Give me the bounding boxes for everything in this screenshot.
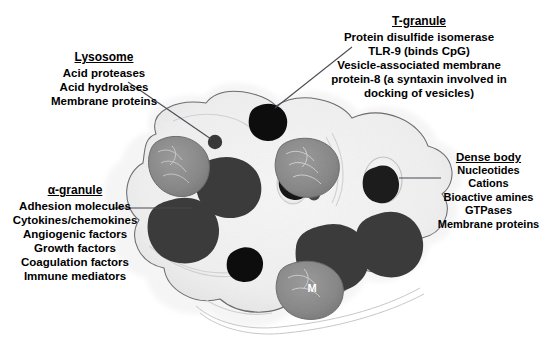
dense-body-item: Membrane proteins xyxy=(424,218,553,231)
t-granule-item: docking of vesicles) xyxy=(288,86,550,100)
dark-granule xyxy=(227,247,263,282)
label-alpha-granule: α-granule Adhesion molecules Cytokines/c… xyxy=(0,183,150,283)
t-granule-title: T-granule xyxy=(288,14,550,29)
alpha-granule-item: Adhesion molecules xyxy=(0,199,150,213)
lysosome-item: Acid proteases xyxy=(14,66,194,80)
dense-body-item: Cations xyxy=(424,177,553,190)
figure-canvas: M Lysosome Acid proteases Acid hydrolase… xyxy=(0,0,553,345)
lysosome-title: Lysosome xyxy=(14,50,194,65)
dense-body-title: Dense body xyxy=(424,150,553,164)
label-lysosome: Lysosome Acid proteases Acid hydrolases … xyxy=(14,50,194,108)
dense-body-item: Bioactive amines xyxy=(424,191,553,204)
lysosome-body xyxy=(208,135,222,149)
mitochondrion-marker-label: M xyxy=(307,282,316,294)
t-granule-item: Protein disulfide isomerase xyxy=(288,30,550,44)
dense-body-item: Nucleotides xyxy=(424,164,553,177)
mitochondrion-labeled: M xyxy=(276,261,343,319)
dense-body-item: GTPases xyxy=(424,204,553,217)
alpha-granule-item: Angiogenic factors xyxy=(0,227,150,241)
alpha-granule-item: Coagulation factors xyxy=(0,255,150,269)
t-granule-item: TLR-9 (binds CpG) xyxy=(288,44,550,58)
t-granule-dark-body xyxy=(249,104,288,141)
alpha-granule-title: α-granule xyxy=(0,183,150,198)
alpha-granule-item: Cytokines/chemokines xyxy=(0,213,150,227)
mitochondrion xyxy=(275,138,339,197)
lysosome-item: Acid hydrolases xyxy=(14,80,194,94)
alpha-granule-item: Immune mediators xyxy=(0,269,150,283)
alpha-granule-item: Growth factors xyxy=(0,241,150,255)
t-granule-item: protein-8 (a syntaxin involved in xyxy=(288,72,550,86)
label-t-granule: T-granule Protein disulfide isomerase TL… xyxy=(288,14,550,100)
lysosome-item: Membrane proteins xyxy=(14,94,194,108)
t-granule-item: Vesicle-associated membrane xyxy=(288,58,550,72)
label-dense-body: Dense body Nucleotides Cations Bioactive… xyxy=(424,150,553,231)
